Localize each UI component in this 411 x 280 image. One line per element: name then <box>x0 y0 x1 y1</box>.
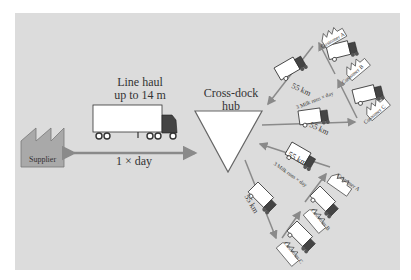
hub-label: Cross-dock hub <box>196 87 266 112</box>
line-haul-truck-icon <box>93 105 177 139</box>
line-haul-frequency: 1 × day <box>104 155 164 168</box>
supplier-label: Supplier <box>21 156 64 164</box>
line-haul-title-line1: Line haul <box>100 76 180 89</box>
line-haul-title-line2: up to 14 m <box>100 89 180 102</box>
diagram-canvas <box>0 0 411 280</box>
hub-label-line2: hub <box>196 100 266 113</box>
line-haul-title: Line haul up to 14 m <box>100 76 180 101</box>
hub-label-line1: Cross-dock <box>196 87 266 100</box>
cross-dock-hub-icon <box>195 111 262 172</box>
